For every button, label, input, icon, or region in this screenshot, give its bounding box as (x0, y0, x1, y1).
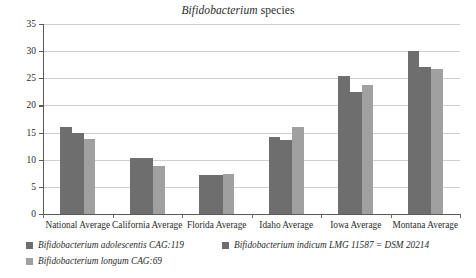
y-tick-label: 15 (27, 128, 37, 138)
bar (419, 67, 431, 214)
bar (292, 127, 304, 214)
bar-group (130, 24, 165, 214)
bar (153, 166, 165, 214)
legend-item-label: Bifidobacterium adolescentis CAG:119 (38, 240, 184, 250)
gridline (43, 24, 460, 25)
y-tick-label: 5 (31, 182, 36, 192)
category-label: Florida Average (187, 220, 246, 230)
y-tick-mark (39, 51, 43, 52)
bar (60, 127, 72, 214)
category-label: Montana Average (392, 220, 458, 230)
y-tick-label: 20 (27, 100, 37, 110)
bar (223, 174, 235, 214)
chart-title-genus: Bifidobacterium (181, 4, 257, 16)
y-tick-label: 35 (27, 19, 37, 29)
chart-title-rest: species (258, 4, 295, 16)
y-tick-label: 25 (27, 73, 37, 83)
x-tick-mark (113, 214, 114, 218)
x-tick-mark (43, 214, 44, 218)
category-label: National Average (45, 220, 110, 230)
legend-item: Bifidobacterium adolescentis CAG:119 (26, 240, 184, 250)
bar-group (269, 24, 304, 214)
legend-swatch-icon (26, 242, 33, 249)
y-axis-line (43, 24, 44, 215)
bar (350, 92, 362, 214)
x-tick-mark (460, 214, 461, 218)
legend-item-label: Bifidobacterium indicum LMG 11587 = DSM … (234, 240, 429, 250)
bar (408, 51, 420, 214)
bar (130, 158, 142, 214)
gridline (43, 78, 460, 79)
bar-group (408, 24, 443, 214)
legend-swatch-icon (222, 242, 229, 249)
gridline (43, 51, 460, 52)
x-tick-mark (252, 214, 253, 218)
chart-legend: Bifidobacterium adolescentis CAG:119 Bif… (26, 240, 466, 274)
bar (211, 175, 223, 214)
y-tick-mark (39, 160, 43, 161)
y-tick-mark (39, 24, 43, 25)
bar (280, 140, 292, 214)
category-label: Iowa Average (330, 220, 381, 230)
y-tick-label: 10 (27, 155, 37, 165)
legend-item: Bifidobacterium indicum LMG 11587 = DSM … (222, 240, 429, 250)
plot-area (43, 24, 460, 214)
gridline (43, 105, 460, 106)
bar-group (338, 24, 373, 214)
gridline (43, 160, 460, 161)
bar (431, 69, 443, 214)
y-tick-label: 0 (31, 209, 36, 219)
gridline (43, 187, 460, 188)
y-tick-label: 30 (27, 46, 37, 56)
y-tick-mark (39, 187, 43, 188)
x-tick-mark (391, 214, 392, 218)
legend-item: Bifidobacterium longum CAG:69 (26, 256, 162, 266)
category-label: California Average (112, 220, 182, 230)
bar-group (199, 24, 234, 214)
bar (84, 139, 96, 214)
bar (199, 175, 211, 214)
bar (269, 137, 281, 214)
chart-title: Bifidobacterium species (0, 4, 476, 16)
bar (338, 76, 350, 214)
bar (72, 133, 84, 214)
legend-item-label: Bifidobacterium longum CAG:69 (38, 256, 162, 266)
y-tick-mark (39, 133, 43, 134)
y-tick-mark (39, 78, 43, 79)
gridline (43, 133, 460, 134)
bar (141, 158, 153, 214)
bar (362, 85, 374, 214)
x-tick-mark (182, 214, 183, 218)
legend-swatch-icon (26, 258, 33, 265)
bar-chart-figure: Bifidobacterium species 05101520253035 N… (0, 0, 476, 278)
y-tick-mark (39, 105, 43, 106)
category-label: Idaho Average (259, 220, 313, 230)
x-tick-mark (321, 214, 322, 218)
bar-group (60, 24, 95, 214)
